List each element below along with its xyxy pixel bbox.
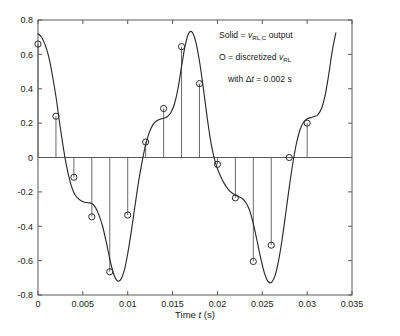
annotation-line-2: O = discretized vRL bbox=[219, 52, 292, 63]
y-tick-label: 0 bbox=[28, 153, 33, 163]
x-tick-label: 0.01 bbox=[119, 299, 137, 309]
x-tick-label: 0.025 bbox=[251, 299, 274, 309]
x-axis-title-suffix: (s) bbox=[201, 309, 215, 320]
chart-plot: 00.0050.010.0150.020.0250.030.0350.80.60… bbox=[0, 0, 400, 336]
figure-container: 00.0050.010.0150.020.0250.030.0350.80.60… bbox=[0, 0, 400, 336]
x-tick-label: 0.03 bbox=[298, 299, 316, 309]
annot2-prefix: O = discretized bbox=[219, 52, 279, 62]
x-tick-label: 0.02 bbox=[209, 299, 227, 309]
annot3-prefix: with Δ bbox=[227, 74, 252, 84]
x-tick-label: 0.015 bbox=[161, 299, 184, 309]
annot3-suffix: = 0.002 s bbox=[254, 74, 292, 84]
y-tick-label: 0.2 bbox=[20, 118, 33, 128]
y-tick-label: 0.8 bbox=[20, 15, 33, 25]
x-tick-label: 0.035 bbox=[341, 299, 364, 309]
annot1-prefix: Solid = bbox=[219, 30, 248, 40]
annotation-line-3: with Δt = 0.002 s bbox=[227, 74, 292, 84]
annotation-line-1: Solid = vRL,C output bbox=[219, 30, 293, 41]
x-axis-title: Time t (s) bbox=[175, 309, 215, 320]
y-tick-label: -0.6 bbox=[17, 256, 33, 266]
x-tick-label: 0.005 bbox=[72, 299, 95, 309]
annot1-suffix: output bbox=[266, 30, 293, 40]
x-axis-title-prefix: Time bbox=[175, 309, 198, 320]
x-tick-label: 0 bbox=[35, 299, 40, 309]
y-tick-label: -0.8 bbox=[17, 290, 33, 300]
tick-labels: 00.0050.010.0150.020.0250.030.0350.80.60… bbox=[17, 15, 363, 309]
y-tick-label: -0.4 bbox=[17, 222, 33, 232]
annot1-sub: RL,C bbox=[252, 34, 267, 41]
annot2-sub: RL bbox=[283, 56, 291, 63]
y-tick-label: -0.2 bbox=[17, 187, 33, 197]
y-tick-label: 0.4 bbox=[20, 84, 33, 94]
y-tick-label: 0.6 bbox=[20, 50, 33, 60]
